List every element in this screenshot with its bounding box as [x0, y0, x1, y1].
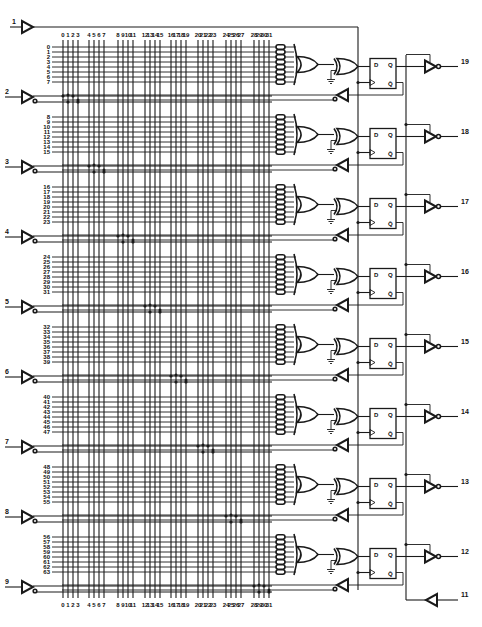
product-term-label: 15 — [43, 149, 50, 155]
inversion-bubble-icon — [33, 99, 37, 103]
connection-dot — [159, 309, 162, 312]
ff-q-label: Q — [388, 62, 393, 68]
input-pin-2: 2 — [5, 88, 272, 104]
macrocell-14: 4041424344454647DQQ̄14 — [43, 394, 469, 452]
connection-dot — [93, 164, 96, 167]
column-label: 31 — [266, 32, 273, 38]
output-buffer-icon — [425, 411, 436, 423]
column-label: 7 — [102, 32, 106, 38]
clock-buffer-icon — [22, 21, 33, 33]
column-label: 4 — [87, 32, 91, 38]
pal-logic-diagram: 0123456789101112131415161718192021222324… — [0, 0, 482, 627]
and-gate-icon — [276, 135, 285, 139]
or-input-brace — [294, 464, 297, 505]
inversion-bubble-icon — [437, 345, 441, 349]
and-gate-icon — [276, 490, 285, 494]
pin-label: 9 — [5, 578, 9, 585]
and-gate-icon — [276, 335, 285, 339]
inversion-bubble-icon — [33, 169, 37, 173]
feedback-buffer-icon — [337, 159, 348, 171]
connection-dot — [175, 374, 178, 377]
and-gate-icon — [276, 220, 285, 224]
and-gate-icon — [276, 125, 285, 129]
connection-dot — [67, 94, 70, 97]
output-buffer-icon — [425, 61, 436, 73]
column-label: 4 — [87, 602, 91, 608]
xor-gate-icon — [337, 129, 358, 145]
and-gate-icon — [276, 145, 285, 149]
input-pin-4: 4 — [5, 228, 272, 244]
and-gate-icon — [276, 285, 285, 289]
inversion-bubble-icon — [333, 97, 337, 101]
input-columns — [63, 40, 269, 598]
column-label: 2 — [71, 32, 75, 38]
inversion-bubble-icon — [437, 65, 441, 69]
input-pin-3: 3 — [5, 158, 272, 174]
product-term-label: 31 — [43, 289, 50, 295]
output-buffer-icon — [425, 271, 436, 283]
output-pin-label: 18 — [461, 128, 469, 135]
or-gate-icon — [297, 197, 318, 213]
inversion-bubble-icon — [33, 309, 37, 313]
and-gate-icon — [276, 205, 285, 209]
oe-pin-label: 11 — [461, 591, 469, 598]
product-term-label: 47 — [43, 429, 50, 435]
pin-label: 3 — [5, 158, 9, 165]
input-buffer-icon — [22, 371, 33, 383]
inversion-bubble-icon — [33, 379, 37, 383]
and-gate-icon — [276, 60, 285, 64]
ff-qbar-label: Q̄ — [388, 221, 393, 227]
and-gate-icon — [276, 270, 285, 274]
column-label: 2 — [71, 602, 75, 608]
and-gate-icon — [276, 140, 285, 144]
macrocell-13: 4849505152535455DQQ̄13 — [43, 464, 469, 522]
output-pin-label: 14 — [461, 408, 469, 415]
and-gate-icon — [276, 115, 285, 119]
and-gate-icon — [276, 470, 285, 474]
feedback-buffer-icon — [337, 439, 348, 451]
xor-gate-icon — [337, 479, 358, 495]
product-term-label: 39 — [43, 359, 50, 365]
column-label: 19 — [183, 602, 190, 608]
and-gate-icon — [276, 570, 285, 574]
product-term-label: 55 — [43, 499, 50, 505]
and-gate-icon — [276, 325, 285, 329]
or-input-brace — [294, 184, 297, 225]
input-buffer-icon — [22, 441, 33, 453]
pin-label: 8 — [5, 508, 9, 515]
macrocell-18: 89101112131415DQQ̄18 — [43, 114, 469, 172]
connection-dot — [240, 519, 243, 522]
output-pin-label: 13 — [461, 478, 469, 485]
output-buffer-icon — [425, 551, 436, 563]
ff-d-label: D — [374, 272, 379, 278]
xor-back-arc — [334, 479, 337, 495]
output-pin-label: 17 — [461, 198, 469, 205]
inversion-bubble-icon — [437, 555, 441, 559]
feedback-buffer-icon — [337, 229, 348, 241]
and-gate-icon — [276, 550, 285, 554]
inversion-bubble-icon — [437, 275, 441, 279]
output-pin-label: 12 — [461, 548, 469, 555]
and-gate-icon — [276, 50, 285, 54]
inversion-bubble-icon — [333, 237, 337, 241]
xor-back-arc — [334, 199, 337, 215]
and-gate-icon — [276, 185, 285, 189]
connection-dot — [132, 239, 135, 242]
column-label: 3 — [76, 32, 80, 38]
connection-dot — [92, 170, 95, 173]
or-gate-icon — [297, 547, 318, 563]
column-label: 8 — [116, 32, 120, 38]
input-buffer-icon — [22, 301, 33, 313]
clock-input: 1 — [10, 18, 358, 590]
pin-label: 7 — [5, 438, 9, 445]
column-labels-bottom: 0123456789101112131415161718192021222324… — [61, 602, 273, 608]
and-gate-icon — [276, 485, 285, 489]
ff-q-label: Q — [388, 342, 393, 348]
connection-dot — [356, 81, 359, 84]
schematic-canvas: 0123456789101112131415161718192021222324… — [0, 0, 482, 627]
or-input-brace — [294, 254, 297, 295]
inversion-bubble-icon — [333, 377, 337, 381]
inversion-bubble-icon — [437, 135, 441, 139]
output-pin-label: 15 — [461, 338, 469, 345]
and-gate-icon — [276, 345, 285, 349]
